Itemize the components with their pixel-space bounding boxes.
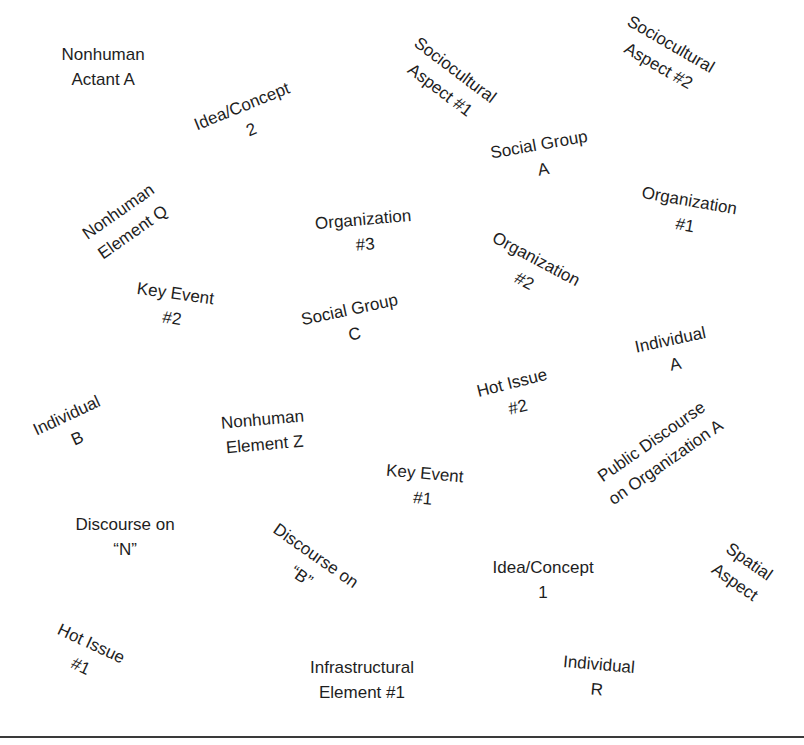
map-element-nonhuman-element-q: NonhumanElement Q bbox=[77, 178, 174, 267]
map-element-organization-1: Organization#1 bbox=[635, 180, 739, 246]
map-element-hot-issue-1: Hot Issue#1 bbox=[43, 617, 129, 693]
map-element-individual-a: IndividualA bbox=[633, 320, 714, 384]
map-element-nonhuman-actant-a: NonhumanActant A bbox=[62, 42, 145, 92]
map-element-social-group-a: Social GroupA bbox=[488, 124, 593, 190]
map-element-sociocultural-aspect-1: SocioculturalAspect #1 bbox=[393, 31, 501, 130]
map-element-discourse-on-n: Discourse on“N” bbox=[76, 512, 175, 562]
map-element-organization-3: Organization#3 bbox=[314, 203, 414, 261]
map-element-label-line: Nonhuman bbox=[62, 42, 145, 67]
map-element-organization-2: Organization#2 bbox=[476, 225, 585, 314]
bottom-rule bbox=[0, 736, 804, 738]
map-element-sociocultural-aspect-2: SocioculturalAspect #2 bbox=[609, 9, 718, 101]
map-element-label-line: Discourse on bbox=[76, 512, 175, 537]
map-element-public-discourse-org-a: Public Discourseon Organization A bbox=[588, 393, 727, 511]
map-element-label-line: Actant A bbox=[62, 67, 145, 92]
map-element-individual-b: IndividualB bbox=[29, 389, 115, 465]
map-element-discourse-on-b: Discourse on“B” bbox=[253, 517, 363, 615]
map-element-idea-concept-2: Idea/Concept2 bbox=[190, 76, 303, 160]
map-element-individual-r: IndividualR bbox=[560, 649, 636, 705]
map-element-label-line: “N” bbox=[76, 537, 175, 562]
map-element-label-line: Idea/Concept bbox=[493, 555, 594, 580]
map-element-social-group-c: Social GroupC bbox=[299, 287, 406, 356]
situational-map: NonhumanActant AIdea/Concept2Sociocultur… bbox=[0, 0, 804, 745]
map-element-idea-concept-1: Idea/Concept1 bbox=[493, 555, 594, 605]
map-element-hot-issue-2: Hot Issue#2 bbox=[474, 362, 556, 428]
map-element-infrastructural-element-1: InfrastructuralElement #1 bbox=[310, 655, 414, 705]
map-element-key-event-2: Key Event#2 bbox=[132, 276, 216, 336]
map-element-spatial-aspect: SpatialAspect bbox=[706, 537, 777, 608]
map-element-key-event-1: Key Event#1 bbox=[383, 458, 465, 515]
map-element-label-line: Element #1 bbox=[310, 680, 414, 705]
map-element-nonhuman-element-z: NonhumanElement Z bbox=[219, 403, 306, 460]
map-element-label-line: 1 bbox=[493, 580, 594, 605]
map-element-label-line: Infrastructural bbox=[310, 655, 414, 680]
